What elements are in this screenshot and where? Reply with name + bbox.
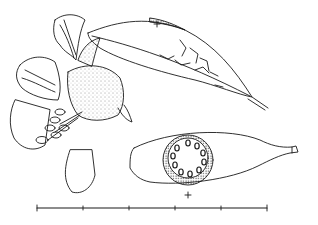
- illustration-svg: [0, 0, 318, 225]
- seed-pod: [130, 132, 298, 183]
- scale-bar: [37, 205, 267, 211]
- botanical-illustration: [0, 0, 318, 225]
- pod-cross-section: [163, 135, 213, 185]
